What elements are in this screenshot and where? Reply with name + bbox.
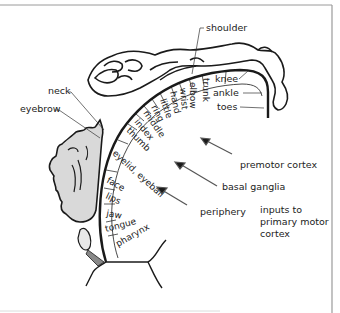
label-eyebrow: eyebrow — [20, 103, 61, 114]
label-premotor-cortex: premotor cortex — [240, 159, 317, 170]
arrow-head-icon — [201, 138, 210, 145]
caption-line-2: primary motor — [260, 216, 329, 227]
caption-inputs: inputs to primary motor cortex — [260, 204, 329, 239]
label-ankle: ankle — [213, 87, 239, 98]
face-figure — [49, 120, 102, 222]
caption-line-1: inputs to — [260, 204, 302, 215]
motor-homunculus-diagram: shoulder neck eyebrow knee ankle toes tr… — [0, 0, 340, 313]
label-shoulder: shoulder — [206, 22, 247, 33]
label-neck: neck — [48, 85, 71, 96]
caption-line-3: cortex — [260, 228, 290, 239]
arrow-head-icon — [175, 162, 185, 169]
label-basal-ganglia: basal ganglia — [222, 181, 285, 192]
input-arrows — [157, 138, 232, 205]
label-jaw: jaw — [105, 208, 123, 221]
label-trunk: trunk — [201, 78, 211, 103]
label-periphery: periphery — [200, 206, 246, 217]
label-toes: toes — [217, 101, 237, 112]
label-knee: knee — [215, 73, 238, 84]
